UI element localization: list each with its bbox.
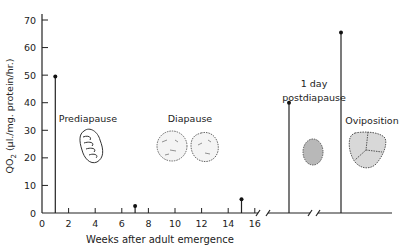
y-tick-label: 50 <box>24 70 36 81</box>
data-point <box>133 204 137 208</box>
prediapause-label: Prediapause <box>59 113 117 124</box>
x-ticks: 0246810121416 <box>39 208 261 229</box>
y-tick-label: 30 <box>24 125 36 136</box>
data-point <box>240 197 244 201</box>
x-tick-label: 0 <box>39 218 45 229</box>
data-point <box>339 30 343 34</box>
y-ticks: 010203040506070 <box>24 15 48 219</box>
y-tick-label: 10 <box>24 180 36 191</box>
x-tick-label: 8 <box>145 218 151 229</box>
y-tick-label: 0 <box>30 208 36 219</box>
y-tick-label: 70 <box>24 15 36 26</box>
oviposition-label: Oviposition <box>345 115 398 126</box>
oviposition-cell-icon <box>349 132 386 168</box>
y-tick-label: 60 <box>24 42 36 53</box>
y-tick-label: 40 <box>24 97 36 108</box>
postdiapause-label-line1: 1 day <box>301 78 328 89</box>
data-point <box>53 75 57 79</box>
x-tick-label: 6 <box>119 218 125 229</box>
y-tick-label: 20 <box>24 152 36 163</box>
diapause-cell-icon-2 <box>191 132 218 161</box>
postdiapause-cell-icon <box>303 139 323 165</box>
x-tick-label: 2 <box>66 218 72 229</box>
y-axis-label: QO2 (µl./mg. protein/hr.) <box>4 58 18 173</box>
x-axis <box>42 210 392 216</box>
prediapause-cell-icon <box>80 129 103 163</box>
x-axis-label: Weeks after adult emergence <box>86 234 234 245</box>
x-tick-label: 12 <box>196 218 208 229</box>
x-tick-label: 16 <box>249 218 261 229</box>
x-tick-label: 10 <box>169 218 181 229</box>
diapause-label: Diapause <box>168 113 213 124</box>
qo2-stem-chart: 010203040506070 0246810121416 QO2 (µl./m… <box>0 0 400 251</box>
postdiapause-label-line2: postdiapause <box>282 92 346 103</box>
x-tick-label: 14 <box>222 218 234 229</box>
diapause-cell-icon-1 <box>157 131 187 161</box>
x-tick-label: 4 <box>92 218 98 229</box>
